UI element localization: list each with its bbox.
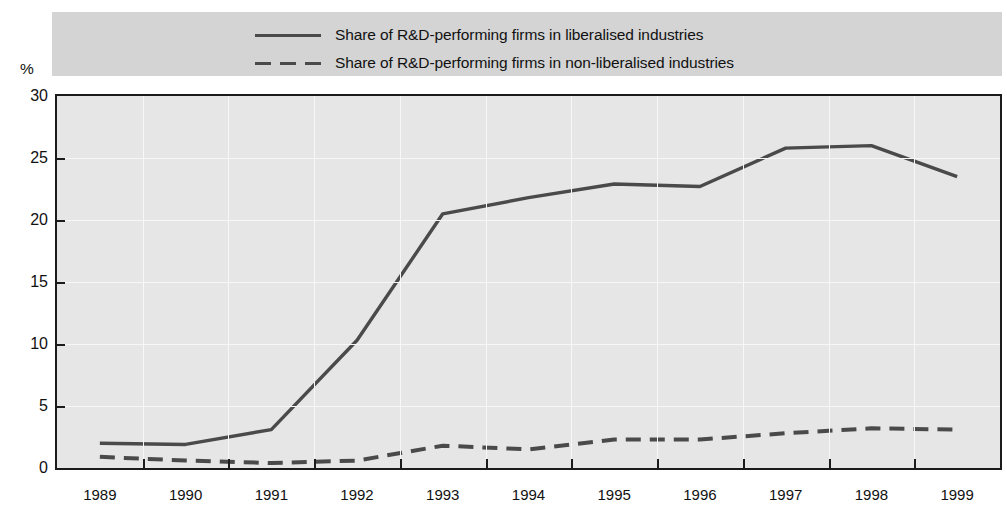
plot-inner <box>57 96 1000 468</box>
x-tick-label-1996: 1996 <box>660 486 740 503</box>
chart-legend: Share of R&D-performing firms in liberal… <box>52 12 1002 76</box>
y-axis-tick <box>57 344 65 346</box>
gridline-vertical <box>314 96 315 468</box>
y-axis-tick <box>57 282 65 284</box>
x-axis-tick <box>228 459 230 468</box>
y-tick-label-15: 15 <box>4 273 48 291</box>
gridline-vertical <box>486 96 487 468</box>
gridline-vertical <box>143 96 144 468</box>
y-axis-tick <box>57 158 65 160</box>
x-axis-tick <box>571 459 573 468</box>
legend-swatch-dashed-line-icon <box>255 62 321 65</box>
gridline-vertical <box>571 96 572 468</box>
legend-label-non-liberalised: Share of R&D-performing firms in non-lib… <box>335 55 734 71</box>
x-tick-label-1998: 1998 <box>831 486 911 503</box>
x-tick-label-1992: 1992 <box>317 486 397 503</box>
x-axis-tick <box>486 459 488 468</box>
y-tick-label-30: 30 <box>4 87 48 105</box>
x-tick-label-1994: 1994 <box>489 486 569 503</box>
chart-figure: Share of R&D-performing firms in liberal… <box>0 0 1007 523</box>
legend-item-liberalised: Share of R&D-performing firms in liberal… <box>255 25 703 45</box>
gridline-vertical <box>657 96 658 468</box>
gridline-horizontal <box>57 282 1000 283</box>
y-tick-label-20: 20 <box>4 211 48 229</box>
legend-item-non-liberalised: Share of R&D-performing firms in non-lib… <box>255 53 734 73</box>
x-tick-label-1989: 1989 <box>60 486 140 503</box>
x-axis-tick <box>400 459 402 468</box>
x-tick-label-1990: 1990 <box>146 486 226 503</box>
legend-swatch-solid-line-icon <box>255 34 321 37</box>
gridline-vertical <box>743 96 744 468</box>
gridline-horizontal <box>57 158 1000 159</box>
gridline-vertical <box>914 96 915 468</box>
legend-label-liberalised: Share of R&D-performing firms in liberal… <box>335 27 703 43</box>
x-axis-tick <box>914 459 916 468</box>
y-tick-label-5: 5 <box>4 397 48 415</box>
gridline-horizontal <box>57 344 1000 345</box>
gridline-vertical <box>829 96 830 468</box>
gridline-vertical <box>228 96 229 468</box>
gridline-horizontal <box>57 220 1000 221</box>
x-tick-label-1993: 1993 <box>403 486 483 503</box>
x-tick-label-1991: 1991 <box>231 486 311 503</box>
gridline-horizontal <box>57 406 1000 407</box>
y-tick-label-25: 25 <box>4 149 48 167</box>
x-axis-tick <box>743 459 745 468</box>
x-tick-label-1999: 1999 <box>917 486 997 503</box>
y-axis-tick <box>57 406 65 408</box>
plot-area <box>55 94 1002 470</box>
y-tick-label-10: 10 <box>4 335 48 353</box>
x-axis-tick <box>657 459 659 468</box>
gridline-vertical <box>400 96 401 468</box>
x-axis-tick <box>143 459 145 468</box>
y-axis-tick <box>57 220 65 222</box>
y-tick-label-0: 0 <box>4 459 48 477</box>
x-axis-tick <box>829 459 831 468</box>
y-axis-tick-labels: 051015202530 <box>0 0 48 523</box>
x-axis-tick <box>314 459 316 468</box>
x-tick-label-1997: 1997 <box>746 486 826 503</box>
x-tick-label-1995: 1995 <box>574 486 654 503</box>
